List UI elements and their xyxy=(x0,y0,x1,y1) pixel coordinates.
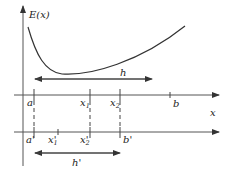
label-x1-prime: x'1 xyxy=(48,134,58,147)
x-axis-label: x xyxy=(210,107,216,118)
h-label: h xyxy=(120,67,126,78)
energy-interval-diagram: E(x) h x a x1 x2 b a' x'1 x'2 b' h' xyxy=(0,0,228,176)
energy-curve xyxy=(28,26,185,74)
label-a: a xyxy=(27,97,33,108)
h-prime-label: h' xyxy=(72,157,81,168)
label-x2-prime: x'2 xyxy=(80,134,90,147)
label-x1: x1 xyxy=(80,97,90,110)
label-b: b xyxy=(173,98,179,109)
label-a-prime: a' xyxy=(26,134,35,145)
label-b-prime: b' xyxy=(123,134,132,145)
y-axis-label: E(x) xyxy=(28,9,50,20)
label-x2: x2 xyxy=(110,97,120,110)
